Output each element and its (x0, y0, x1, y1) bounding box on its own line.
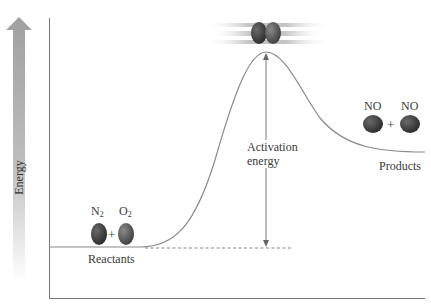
no-label-2: NO (401, 100, 418, 112)
activation-energy-label: Activation energy (247, 140, 298, 168)
reactants-plus: + (108, 228, 115, 241)
n2-molecule-icon (91, 223, 107, 245)
o2-molecule-icon (118, 223, 134, 245)
y-axis-label: Energy (12, 155, 27, 201)
no-molecule-icon-1 (363, 115, 383, 133)
energy-arrow-icon (6, 17, 32, 282)
products-plus: + (387, 118, 394, 131)
o2-label: O2 (119, 205, 132, 219)
activation-energy-label-line1: Activation (247, 141, 298, 153)
transition-state-molecule-icon (205, 22, 330, 44)
no-label-1: NO (364, 100, 381, 112)
activation-energy-label-line2: energy (247, 155, 298, 167)
n2-label: N2 (91, 205, 104, 219)
no-molecule-icon-2 (400, 115, 420, 133)
reaction-curve (49, 52, 425, 247)
reactants-label: Reactants (88, 253, 135, 265)
products-label: Products (379, 160, 421, 172)
diagram-canvas (0, 0, 431, 308)
